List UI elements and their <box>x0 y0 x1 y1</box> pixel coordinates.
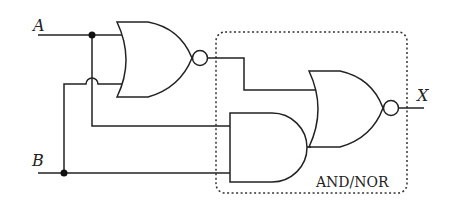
junction-a <box>89 32 96 39</box>
input-label-b: B <box>31 151 44 170</box>
input-label-a: A <box>31 16 45 35</box>
logic-circuit-diagram: A B AND/NOR X <box>0 0 454 208</box>
junction-b <box>61 170 68 177</box>
nor-gate-1-bubble <box>193 51 208 66</box>
group-label: AND/NOR <box>315 174 389 190</box>
output-label-x: X <box>415 86 429 105</box>
nor-gate-2-bubble <box>384 101 399 116</box>
nor-gate-2 <box>309 71 383 147</box>
nor-gate-1 <box>117 22 192 97</box>
wire-nor1-to-nor2 <box>208 58 318 90</box>
and-gate <box>230 113 307 182</box>
